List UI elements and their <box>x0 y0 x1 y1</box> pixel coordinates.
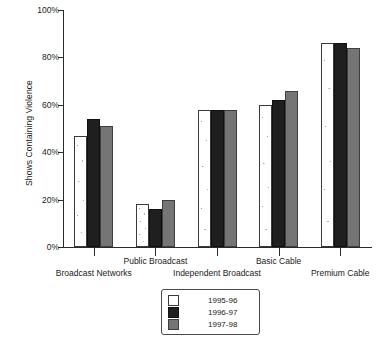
x-axis-tick-mark <box>340 247 341 256</box>
bar <box>347 48 360 247</box>
bar <box>136 204 149 247</box>
bar <box>321 43 334 247</box>
y-axis-tick-label: 80% <box>42 52 59 62</box>
bar <box>198 110 211 247</box>
y-axis-tick-label: 100% <box>37 5 59 15</box>
legend-label: 1995-96 <box>208 296 237 305</box>
bar <box>285 91 298 247</box>
legend-swatch <box>168 319 179 330</box>
bar <box>74 136 87 247</box>
y-axis-tick-label: 40% <box>42 147 59 157</box>
x-axis-tick-mark <box>94 247 95 256</box>
legend-swatch <box>168 295 179 306</box>
x-axis-tick-mark <box>217 247 218 256</box>
bar <box>211 110 224 247</box>
y-axis-tick-label: 20% <box>42 195 59 205</box>
bar <box>100 126 113 247</box>
legend-label: 1997-98 <box>208 320 237 329</box>
bar <box>162 200 175 247</box>
x-axis-tick-mark <box>155 247 156 256</box>
x-axis-category-label: Independent Broadcast <box>173 268 261 278</box>
bar <box>334 43 347 247</box>
bar <box>149 209 162 247</box>
bar <box>259 105 272 247</box>
y-axis-title: Shows Containing Violence <box>24 48 34 218</box>
bar <box>87 119 100 247</box>
legend-swatch <box>168 307 179 318</box>
x-axis-category-label: Basic Cable <box>256 256 301 266</box>
plot-area <box>63 10 371 247</box>
y-axis-tick-label: 60% <box>42 100 59 110</box>
bar <box>272 100 285 247</box>
x-axis-category-label: Public Broadcast <box>123 256 187 266</box>
y-axis-tick-label: 0% <box>47 242 59 252</box>
x-axis-category-label: Premium Cable <box>311 268 370 278</box>
violence-bar-chart: Shows Containing Violence 0%20%40%60%80%… <box>0 0 380 340</box>
legend: 1995-961996-971997-98 <box>161 289 260 335</box>
x-axis-category-label: Broadcast Networks <box>56 268 132 278</box>
bar <box>224 110 237 247</box>
legend-label: 1996-97 <box>208 308 237 317</box>
x-axis-tick-mark <box>279 247 280 256</box>
